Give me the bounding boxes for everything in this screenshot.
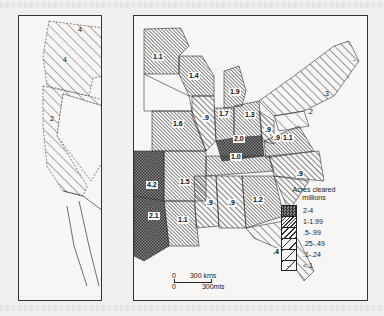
- map-label-georgia: 1.2: [252, 196, 264, 204]
- map-label-ohio: 1.3: [244, 111, 256, 119]
- map-label-maine: -: [352, 56, 356, 64]
- map-label-new-york: .3: [322, 90, 330, 98]
- legend-title: Acres cleared: [279, 186, 349, 194]
- west-coast-map-panel: 4 4 2: [18, 15, 102, 301]
- map-label-texas-east: 2.1: [148, 212, 160, 220]
- map-label-louisiana: 1.1: [177, 216, 189, 224]
- legend-item: .5-.99: [281, 227, 349, 238]
- map-label-north-carolina: .9: [273, 134, 281, 142]
- map-label-south-carolina: .9: [296, 170, 304, 178]
- map-label-kentucky: 2.0: [233, 135, 245, 143]
- scale-zero-mi: 0: [172, 283, 176, 290]
- west-coast-map: [19, 16, 102, 301]
- map-legend: Acres cleared millions 2-4 1-1.99 .5-.99…: [279, 186, 349, 271]
- legend-item: –<.1: [281, 260, 349, 271]
- map-label-tennessee: 1.0: [230, 153, 242, 161]
- map-label-wisconsin: 1.4: [188, 72, 200, 80]
- map-label-mississippi: .9: [206, 199, 214, 207]
- scale-mi-label: 300mls: [202, 283, 225, 290]
- scale-zero-km: 0: [172, 272, 176, 279]
- eastern-us-map-panel: 1.1 1.4 1.9 .9 1.7 1.3 1.6 2.0 .9 1.1 1.…: [133, 15, 368, 301]
- map-label-indiana: 1.7: [218, 110, 230, 118]
- legend-item: 2-4: [281, 205, 349, 216]
- legend-item: .25-.49: [281, 238, 349, 249]
- scale-km-label: 300 kms: [190, 272, 216, 279]
- map-label-pennsylvania: .2: [306, 108, 314, 116]
- map-label-oklahoma: 4.2: [146, 181, 158, 189]
- swatch-wide-diagonal: [281, 238, 297, 249]
- map-label-vermont: -: [346, 73, 350, 81]
- map-label-virginia: 1.1: [282, 134, 294, 142]
- legend-item: 1-1.99: [281, 216, 349, 227]
- map-label-washington: 4: [77, 26, 83, 34]
- map-label-oregon: 4: [62, 56, 68, 64]
- map-label-michigan: 1.9: [229, 88, 241, 96]
- swatch-dense-crosshatch: [281, 205, 297, 216]
- map-label-west-virginia: .9: [264, 126, 272, 134]
- swatch-medium-diagonal: [281, 227, 297, 238]
- swatch-dash: –: [281, 260, 297, 271]
- swatch-dense-diagonal: [281, 216, 297, 227]
- map-label-california: 2: [49, 115, 55, 123]
- map-label-alabama: .9: [228, 199, 236, 207]
- map-label-arkansas: 1.5: [179, 178, 191, 186]
- swatch-sparse-diagonal: [281, 249, 297, 260]
- legend-subtitle: millions: [279, 194, 349, 202]
- map-label-minnesota: 1.1: [152, 53, 164, 61]
- map-label-missouri: 1.6: [172, 120, 184, 128]
- map-label-illinois: .9: [202, 114, 210, 122]
- scale-bar: 0300 kms 0300mls: [172, 272, 224, 290]
- legend-item: .1-.24: [281, 249, 349, 260]
